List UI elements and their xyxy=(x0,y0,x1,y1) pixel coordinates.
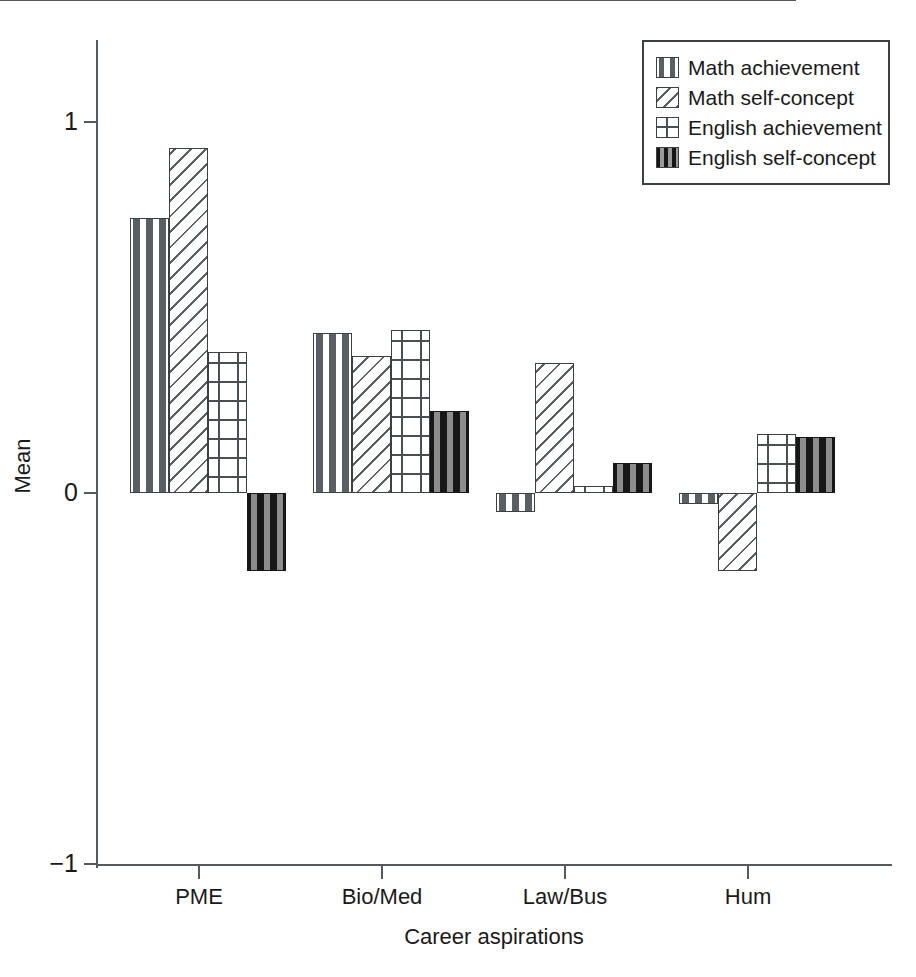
bar xyxy=(535,363,574,493)
legend-item-label: English achievement xyxy=(688,117,882,138)
bar xyxy=(391,330,430,493)
bar xyxy=(208,352,247,493)
bar xyxy=(130,218,169,493)
legend-item-label: English self-concept xyxy=(688,147,876,168)
legend-swatch-icon xyxy=(656,117,679,138)
legend-item[interactable]: Math achievement xyxy=(656,52,876,82)
bar-chart-figure: 10−1 PMEBio/MedLaw/BusHum Mean Career as… xyxy=(0,0,916,977)
bar xyxy=(313,333,352,493)
chart-legend: Math achievementMath self-conceptEnglish… xyxy=(642,40,890,185)
legend-swatch-icon xyxy=(656,57,679,78)
bar xyxy=(613,463,652,493)
bar xyxy=(496,493,535,512)
legend-swatch-icon xyxy=(656,87,679,108)
legend-item[interactable]: English achievement xyxy=(656,112,876,142)
bar xyxy=(247,493,286,571)
bar xyxy=(718,493,757,571)
legend-swatch-icon xyxy=(656,147,679,168)
bar xyxy=(574,486,613,493)
bar xyxy=(757,434,796,493)
legend-item-label: Math self-concept xyxy=(688,87,854,108)
bar xyxy=(679,493,718,504)
legend-item[interactable]: English self-concept xyxy=(656,142,876,172)
bar xyxy=(430,411,469,493)
legend-item-label: Math achievement xyxy=(688,57,860,78)
legend-item[interactable]: Math self-concept xyxy=(656,82,876,112)
bar xyxy=(352,356,391,493)
bar xyxy=(796,437,835,493)
bar xyxy=(169,148,208,493)
